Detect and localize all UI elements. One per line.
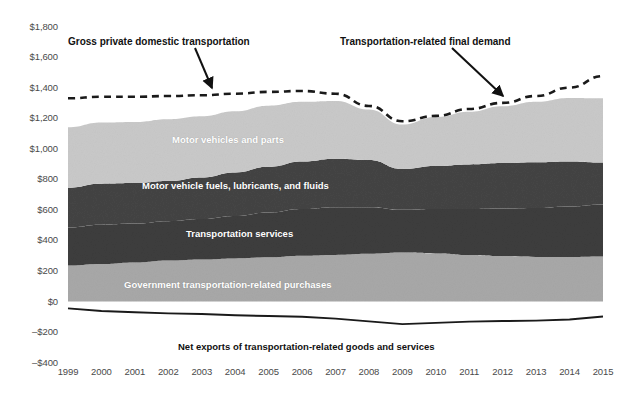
- y-tick-200: $200: [4, 265, 58, 276]
- annotation-arrows: [195, 48, 503, 96]
- stacked-area-bands: [68, 98, 603, 302]
- band-label-1: Motor vehicle fuels, lubricants, and flu…: [142, 180, 329, 191]
- x-tick-2011: 2011: [452, 366, 486, 377]
- y-tick-1000: $1,000: [4, 143, 58, 154]
- y-tick--400: –$400: [4, 357, 58, 368]
- x-tick-2014: 2014: [553, 366, 587, 377]
- x-tick-2005: 2005: [252, 366, 286, 377]
- net-exports-label: Net exports of transportation-related go…: [178, 341, 435, 352]
- y-tick-0: $0: [4, 296, 58, 307]
- x-tick-1999: 1999: [51, 366, 85, 377]
- x-tick-2012: 2012: [486, 366, 520, 377]
- y-tick-600: $600: [4, 204, 58, 215]
- x-tick-2013: 2013: [519, 366, 553, 377]
- band-label-2: Transportation services: [186, 228, 293, 239]
- y-tick-1400: $1,400: [4, 82, 58, 93]
- y-tick-800: $800: [4, 173, 58, 184]
- y-tick--200: –$200: [4, 326, 58, 337]
- y-tick-1600: $1,600: [4, 51, 58, 62]
- stacked-area-chart: $1,800$1,600$1,400$1,200$1,000$800$600$4…: [0, 0, 621, 397]
- net-exports-line: [68, 308, 603, 324]
- x-tick-2007: 2007: [319, 366, 353, 377]
- y-tick-400: $400: [4, 234, 58, 245]
- x-tick-2010: 2010: [419, 366, 453, 377]
- x-tick-2002: 2002: [151, 366, 185, 377]
- x-tick-2003: 2003: [185, 366, 219, 377]
- x-tick-2009: 2009: [385, 366, 419, 377]
- x-tick-2004: 2004: [218, 366, 252, 377]
- x-tick-2008: 2008: [352, 366, 386, 377]
- x-tick-2015: 2015: [586, 366, 620, 377]
- annotation-transportation-related-final-demand: Transportation-related final demand: [340, 36, 511, 47]
- chart-canvas: [0, 0, 621, 397]
- x-tick-2000: 2000: [84, 366, 118, 377]
- net-exports-path: [68, 308, 603, 324]
- y-tick-1200: $1,200: [4, 112, 58, 123]
- annotation-arrow-0: [195, 48, 212, 88]
- band-label-0: Motor vehicles and parts: [172, 134, 284, 145]
- annotation-gross-private-domestic-transportation: Gross private domestic transportation: [68, 36, 250, 47]
- x-tick-2001: 2001: [118, 366, 152, 377]
- annotation-arrow-1: [452, 48, 503, 96]
- x-tick-2006: 2006: [285, 366, 319, 377]
- y-tick-1800: $1,800: [4, 21, 58, 32]
- band-label-3: Government transportation-related purcha…: [124, 279, 331, 290]
